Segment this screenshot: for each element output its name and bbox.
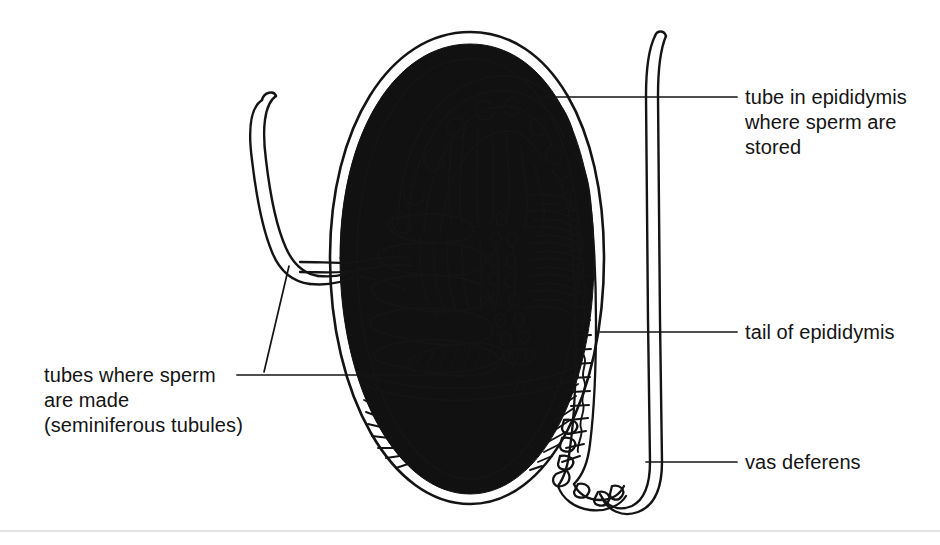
label-tube-in-epididymis: tube in epididymis where sperm are store… xyxy=(745,85,907,160)
tail-of-epididymis xyxy=(553,420,626,511)
label-vas-deferens: vas deferens xyxy=(745,450,861,475)
leader-seminiferous-diagonal xyxy=(264,266,289,372)
vas-deferens xyxy=(600,32,666,515)
label-seminiferous-tubules: tubes where sperm are made (seminiferous… xyxy=(44,363,243,438)
label-tail-of-epididymis: tail of epididymis xyxy=(745,320,895,345)
aberrant-ductule xyxy=(250,93,318,284)
figure-canvas: tube in epididymis where sperm are store… xyxy=(0,0,940,545)
